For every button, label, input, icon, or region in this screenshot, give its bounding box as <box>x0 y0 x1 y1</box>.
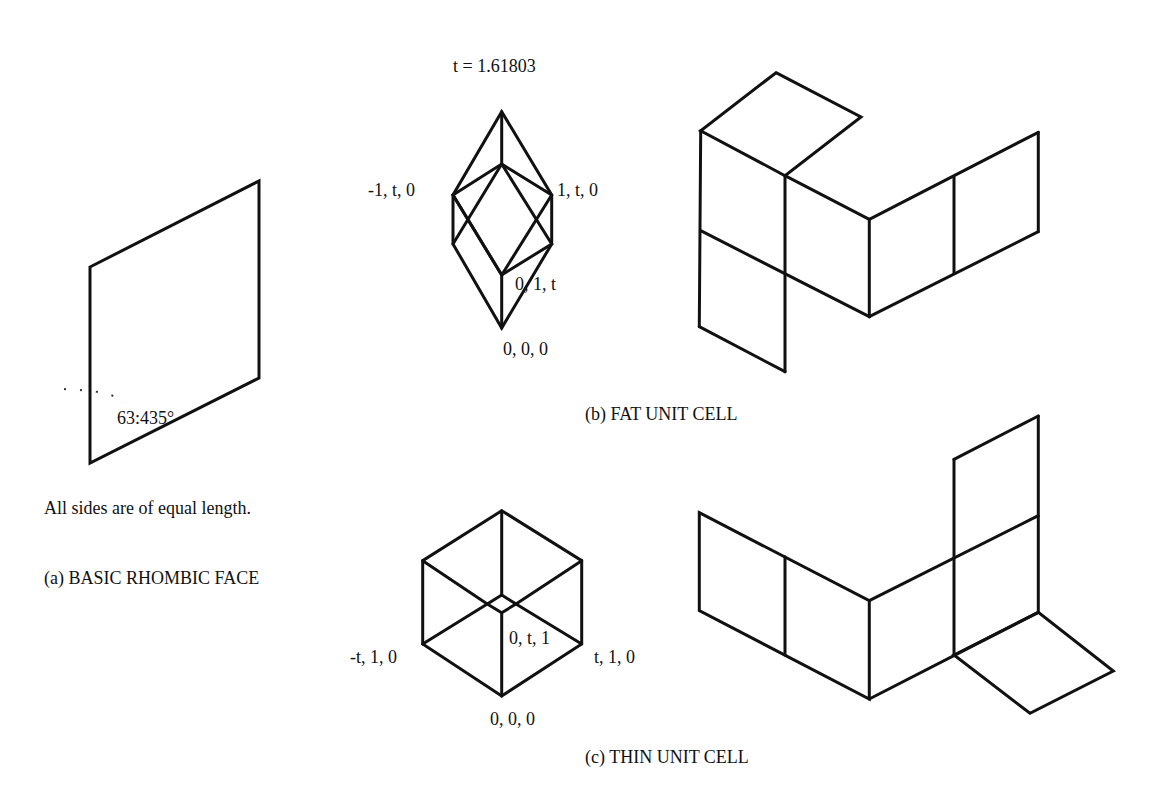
rhombohedra-figure: 63:435° All sides are of equal length. (… <box>0 0 1156 801</box>
caption-thin-unit-cell: (c) THIN UNIT CELL <box>585 747 749 768</box>
thin-vertex-left-label: -t, 1, 0 <box>350 647 397 667</box>
fat-unit-cell-net <box>699 73 1038 372</box>
golden-ratio-label: t = 1.61803 <box>453 56 536 76</box>
thin-vertex-right-label: t, 1, 0 <box>594 647 635 667</box>
fat-rhombohedron <box>453 112 552 328</box>
thin-vertex-inner-label: 0, t, 1 <box>509 628 550 648</box>
thin-vertex-origin-label: 0, 0, 0 <box>490 709 535 729</box>
angle-label: 63:435° <box>117 408 174 428</box>
fat-vertex-inner-label: 0, 1, t <box>515 274 556 294</box>
caption-fat-unit-cell: (b) FAT UNIT CELL <box>585 404 738 425</box>
fat-vertex-right-label: 1, t, 0 <box>557 180 598 200</box>
fat-vertex-left-label: -1, t, 0 <box>368 180 415 200</box>
caption-basic-rhombic-face: (a) BASIC RHOMBIC FACE <box>44 568 259 589</box>
thin-rhombohedron <box>423 511 582 696</box>
fat-vertex-origin-label: 0, 0, 0 <box>503 339 548 359</box>
equal-sides-note: All sides are of equal length. <box>44 498 251 518</box>
thin-unit-cell-net <box>699 416 1113 713</box>
